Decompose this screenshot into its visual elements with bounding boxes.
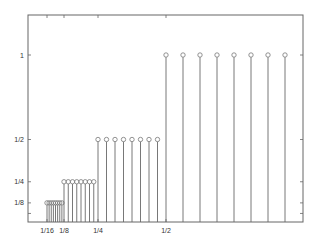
stem-marker xyxy=(83,180,87,184)
stem-marker xyxy=(113,137,117,141)
stem-marker xyxy=(96,137,100,141)
stem-marker xyxy=(283,53,287,57)
axis-ticks xyxy=(28,15,303,222)
stem-marker xyxy=(147,137,151,141)
stem-marker xyxy=(70,180,74,184)
stem-marker xyxy=(155,137,159,141)
axes-frame xyxy=(28,15,303,222)
series-level-1 xyxy=(164,53,287,222)
stem-plot: 1/161/81/41/2 1/81/41/21 xyxy=(0,0,319,243)
stem-marker xyxy=(138,137,142,141)
stem-marker xyxy=(92,180,96,184)
y-tick-label: 1/8 xyxy=(14,199,24,206)
stem-marker xyxy=(215,53,219,57)
stem-marker xyxy=(266,53,270,57)
y-tick-label: 1/4 xyxy=(14,178,24,185)
stem-marker xyxy=(249,53,253,57)
y-tick-labels: 1/81/41/21 xyxy=(14,52,24,207)
stem-marker xyxy=(62,180,66,184)
stem-marker xyxy=(232,53,236,57)
stem-marker xyxy=(66,180,70,184)
stem-marker xyxy=(198,53,202,57)
x-tick-labels: 1/161/81/41/2 xyxy=(40,227,171,234)
series-level-1/4 xyxy=(62,180,96,222)
stem-marker xyxy=(87,180,91,184)
x-tick-label: 1/4 xyxy=(93,227,103,234)
stem-marker xyxy=(181,53,185,57)
stem-marker xyxy=(104,137,108,141)
stem-marker xyxy=(130,137,134,141)
x-tick-label: 1/8 xyxy=(59,227,69,234)
stem-marker xyxy=(75,180,79,184)
stem-series xyxy=(45,53,287,222)
y-tick-label: 1 xyxy=(20,52,24,59)
series-level-1/2 xyxy=(96,137,160,222)
y-tick-label: 1/2 xyxy=(14,136,24,143)
stem-marker xyxy=(121,137,125,141)
stem-marker xyxy=(164,53,168,57)
x-tick-label: 1/16 xyxy=(40,227,54,234)
x-tick-label: 1/2 xyxy=(161,227,171,234)
stem-marker xyxy=(79,180,83,184)
series-level-1/8 xyxy=(45,201,64,222)
